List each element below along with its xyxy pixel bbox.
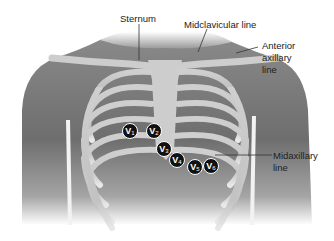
electrode-v6-num: 6 [212,165,215,171]
electrode-v2-num: 2 [155,130,158,136]
torso-illustration [0,0,334,241]
electrode-v4-num: 4 [178,159,181,165]
electrode-v4: V4 [169,152,185,168]
anterior-axillary-line-label-1: Anterior [262,40,295,51]
midclavicular-line-label: Midclavicular line [184,19,256,30]
electrode-v1-num: 1 [131,130,134,136]
electrode-v2: V2 [146,123,162,139]
midaxillary-line-label-1: Midaxillary [273,150,318,161]
anterior-axillary-line-label-3: line [262,64,277,75]
electrode-v6: V6 [203,158,219,174]
electrode-v5: V5 [187,159,203,175]
electrode-v1: V1 [122,123,138,139]
chest-lead-diagram: Sternum Midclavicular line Anterior axil… [0,0,334,241]
sternum-label: Sternum [120,13,156,24]
midaxillary-line-label-2: line [273,162,288,173]
electrode-v5-num: 5 [196,166,199,172]
electrode-v3-num: 3 [165,148,168,154]
anterior-axillary-line-label-2: axillary [262,52,292,63]
